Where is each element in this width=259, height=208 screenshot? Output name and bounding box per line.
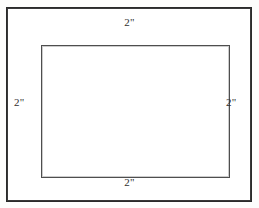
dimension-label-right: 2" — [226, 97, 236, 108]
dimension-label-top: 2" — [0, 17, 259, 28]
outer-rectangle — [6, 7, 252, 202]
inner-rectangle — [41, 45, 230, 178]
dimension-label-bottom: 2" — [0, 177, 259, 188]
dimension-label-left: 2" — [14, 97, 24, 108]
border-diagram: 2" 2" 2" 2" — [0, 0, 259, 208]
